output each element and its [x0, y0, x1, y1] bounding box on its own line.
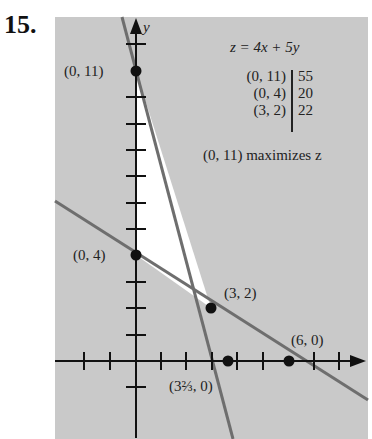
label-3-2-3-0: (3⅔, 0) [169, 378, 213, 395]
y-axis-arrow-icon [130, 18, 142, 34]
point-0-11 [131, 66, 142, 77]
boundary-line-2 [55, 201, 368, 400]
x-axis-arrow-icon [350, 355, 366, 367]
objective-equation: z = 4x + 5y [230, 39, 299, 56]
table-point: (0, 4) [222, 85, 286, 102]
point-0-4 [131, 250, 142, 261]
point-6-0 [284, 356, 295, 367]
label-0-4: (0, 4) [73, 247, 106, 264]
table-point: (3, 2) [222, 102, 286, 119]
label-3-2: (3, 2) [224, 285, 257, 302]
table-value: 22 [298, 102, 313, 119]
point-3-2 [206, 303, 217, 314]
point-3-2-3-0 [223, 356, 234, 367]
table-divider [291, 70, 293, 132]
feasible-region [136, 71, 211, 308]
table-value: 55 [298, 68, 313, 85]
graph-svg: y (0, 11) (0, 4) (3, 2) (3⅔, 0) (6, 0) [0, 0, 372, 439]
label-6-0: (6, 0) [291, 332, 324, 349]
table-value: 20 [298, 85, 313, 102]
label-0-11: (0, 11) [64, 63, 103, 80]
objective-conclusion: (0, 11) maximizes z [203, 147, 322, 164]
y-axis-label: y [141, 19, 150, 35]
table-point: (0, 11) [222, 68, 286, 85]
